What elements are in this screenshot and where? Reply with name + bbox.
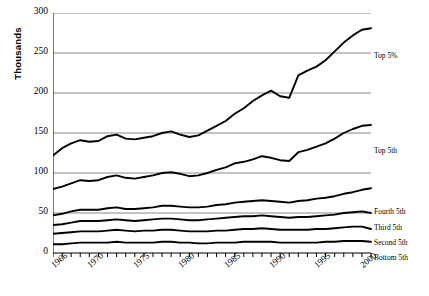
- series-line-top-5th: [53, 125, 371, 189]
- series-line-top-5: [53, 28, 371, 155]
- y-tick-label: 250: [22, 46, 48, 56]
- series-line-second-5th: [53, 227, 371, 234]
- series-label-bottom-5th: Bottom 5th: [374, 253, 408, 262]
- income-quintile-line-chart: Thousands 050100150200250300 19661970197…: [0, 0, 429, 296]
- plot-area: [53, 13, 371, 253]
- y-tick-label: 150: [22, 126, 48, 136]
- series-label-top-5th: Top 5th: [374, 146, 397, 155]
- series-line-third-5th: [53, 211, 371, 225]
- y-tick-label: 100: [22, 166, 48, 176]
- y-axis-title: Thousands: [12, 16, 23, 92]
- y-tick-label: 300: [22, 6, 48, 16]
- y-tick-label: 0: [22, 246, 48, 256]
- series-label-second-5th: Second 5th: [374, 238, 408, 247]
- chart-svg: [53, 13, 373, 265]
- y-tick-label: 200: [22, 86, 48, 96]
- series-label-fourth-5th: Fourth 5th: [374, 207, 405, 216]
- series-label-top-5: Top 5%: [374, 51, 397, 60]
- series-label-third-5th: Third 5th: [374, 223, 402, 232]
- series-line-bottom-5th: [53, 241, 371, 244]
- y-tick-label: 50: [22, 206, 48, 216]
- series-line-fourth-5th: [53, 188, 371, 215]
